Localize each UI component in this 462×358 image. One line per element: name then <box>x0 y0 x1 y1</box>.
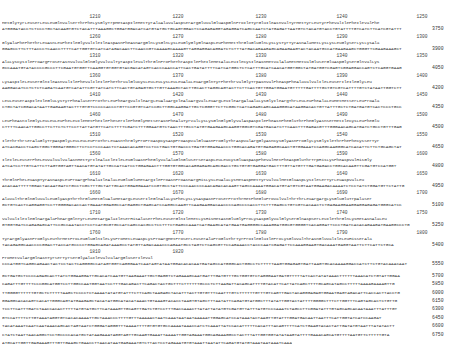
ruler-tick-label: 1700 <box>416 190 427 196</box>
nucleotide-sequence: ATCATCCTTGTCATTCTTAGTGGTAGTTAACATGTATATT… <box>2 163 422 169</box>
ruler-tick-label: 1510 <box>89 132 100 138</box>
amino-acid-sequence: LysAspIleLeuSerGlnIleAsnValIlePheValIleI… <box>2 79 422 85</box>
nucleotide-position-number: 5400 <box>432 242 444 248</box>
nucleotide-sequence: CTTTTCAACATTGGCCTTCTTCTCTTCCTTATTATGTTCA… <box>2 124 422 130</box>
position-ruler: 14101420143014401450 <box>2 92 422 98</box>
ruler-tick-label: 1820 <box>172 249 183 255</box>
ruler-tick-label: 1610 <box>89 171 100 177</box>
nucleotide-position-number: 5850 <box>432 281 444 287</box>
nucleotide-position-number: 6600 <box>432 323 444 329</box>
ruler-tick-label: 1220 <box>172 14 183 20</box>
nucleotide-position-number: 6000 <box>432 290 444 296</box>
ruler-tick-label: 1470 <box>172 112 183 118</box>
nucleotide-position-number: 4200 <box>432 85 444 91</box>
nucleotide-position-number: 6450 <box>432 315 444 321</box>
position-ruler: 17101720173017401750 <box>2 210 422 216</box>
ruler-tick-label: 1790 <box>336 230 347 236</box>
nucleotide-position-number: 5700 <box>432 273 444 279</box>
ruler-tick-label: 1680 <box>255 190 266 196</box>
amino-acid-sequence: TyrArgGlyAsnProGlyLeuThrMetProLeuGluGlnI… <box>2 236 422 242</box>
nucleotide-position-number: 4350 <box>432 104 444 110</box>
nucleotide-sequence: GCTGTCACTCAGGAGGTCCTTGGGGACACCACTGAAATGG… <box>2 202 422 208</box>
nucleotide-position-number: 5250 <box>432 222 444 228</box>
position-ruler: 17601770178017901800 <box>2 230 422 236</box>
ruler-tick-label: 1450 <box>416 92 427 98</box>
coding-block: 16101620163016401650ThrGlnPheLeuAspTyrAs… <box>2 171 422 189</box>
ruler-tick-label: 1370 <box>172 73 183 79</box>
ruler-tick-label: 1440 <box>336 92 347 98</box>
ruler-tick-label: 1350 <box>416 53 427 59</box>
ruler-tick-label: 1710 <box>89 210 100 216</box>
ruler-tick-label: 1280 <box>255 34 266 40</box>
amino-acid-sequence: GlyAlaPhePheThrLeuAsnLeuPheIleGlyValIleI… <box>2 40 422 46</box>
ruler-tick-label: 1460 <box>89 112 100 118</box>
nucleotide-sequence: TACAGAGGCAACCCCGGACTTACCATGCCCCTGGAGCAGA… <box>2 242 422 248</box>
ruler-tick-label: 1580 <box>255 151 266 157</box>
ruler-tick-label: 1720 <box>172 210 183 216</box>
nucleotide-position-number: 4650 <box>432 144 444 150</box>
ruler-tick-label: 1430 <box>255 92 266 98</box>
sequence-figure: 12101220123012401250MetGlyTyrLeuSerLeuLe… <box>0 0 462 358</box>
ruler-tick-label: 1310 <box>89 53 100 59</box>
utr-nucleotide-line: GCTGATGCTCCCCAGAGCACTTATCTGGAAGGATTGCACA… <box>2 273 422 279</box>
ruler-tick-label: 1360 <box>89 73 100 79</box>
ruler-tick-label: 1250 <box>416 14 427 20</box>
coding-block: 15601570158015901600IleIleLeuSerPheLeuVa… <box>2 151 422 169</box>
ruler-tick-label: 1500 <box>416 112 427 118</box>
ruler-tick-label: 1590 <box>336 151 347 157</box>
sequence-terminus-line: ATGCATTGGTTGAGAAAGTTTGTTGAAGCTGAACCTTAAC… <box>2 340 292 346</box>
coding-block: 17101720173017401750ValValIleIleGlnArgAl… <box>2 210 422 228</box>
ruler-tick-label: 1410 <box>89 92 100 98</box>
ruler-tick-label: 1690 <box>336 190 347 196</box>
ruler-tick-label: 1770 <box>172 230 183 236</box>
ruler-tick-label: 1630 <box>255 171 266 177</box>
amino-acid-sequence: ThrGlnPheLeuAspTyrAsnAspLeuProArgPheAlaI… <box>2 177 422 183</box>
ruler-tick-label: 1760 <box>89 230 100 236</box>
ruler-tick-label: 1570 <box>172 151 183 157</box>
nucleotide-sequence: CTGCTATCGGACATAATTGAGAAGTACTTTGTGTCCCCCA… <box>2 104 422 110</box>
nucleotide-sequence: CCCATGGTCAGGCAGAACTACTCCTACTCAGGGGCCATAG… <box>2 261 422 267</box>
ruler-tick-label: 1210 <box>89 14 100 20</box>
nucleotide-sequence: ATCACGACCTCAGCTGGCTGGGATGGGCTTCTCCTCCCAA… <box>2 144 422 150</box>
nucleotide-position-number: 3750 <box>432 26 444 32</box>
nucleotide-position-number: 5100 <box>432 202 444 208</box>
ruler-tick-label: 1650 <box>416 171 427 177</box>
ruler-tick-label: 1540 <box>336 132 347 138</box>
nucleotide-sequence: GTGGTGATCCAGAGAGCATTCCGCCAATACCTCCTCATGC… <box>2 222 422 228</box>
ruler-tick-label: 1270 <box>172 34 183 40</box>
utr-nucleotide-line: CAGATTTGTTTTCCCGGCATGGTCCTTGGCCAATGGTAAT… <box>2 281 422 287</box>
position-ruler: 16601670168016901700 <box>2 190 422 196</box>
nucleotide-sequence: ATGGGATACCTCTCCCTGCTACAAGTGTCTACATTTAAAG… <box>2 26 422 32</box>
utr-nucleotide-line: TACATAAATCAATCAATAAACAGCACTAGTAATCTGGGAT… <box>2 323 422 329</box>
position-ruler: 12101220123012401250 <box>2 14 422 20</box>
ruler-tick-label: 1330 <box>255 53 266 59</box>
amino-acid-sequence: IleThrThrSerAlaGlyTrpAspGlyLeuLeuLeuProT… <box>2 138 422 144</box>
ruler-tick-label: 1660 <box>89 190 100 196</box>
nucleotide-position-number: 4950 <box>432 183 444 189</box>
position-ruler: 13601370138013901400 <box>2 73 422 79</box>
ruler-tick-label: 1800 <box>416 230 427 236</box>
ruler-tick-label: 1640 <box>336 171 347 177</box>
nucleotide-position-number: 3900 <box>432 46 444 52</box>
utr-nucleotide-line: TCCTTCATTTGATCTAACCACACTTTTTATGTATGCTTCA… <box>2 306 422 312</box>
ruler-tick-label: 1320 <box>172 53 183 59</box>
nucleotide-sequence: ACACAATTTTTGGACTACAATGATCTGCCTCGCTTTGCTA… <box>2 183 422 189</box>
nucleotide-position-number: 6750 <box>432 332 444 338</box>
nucleotide-position-number: 6300 <box>432 306 444 312</box>
ruler-tick-label: 1420 <box>172 92 183 98</box>
ruler-tick-label: 1480 <box>255 112 266 118</box>
position-ruler: 13101320133013401350 <box>2 53 422 59</box>
ruler-tick-label: 1340 <box>336 53 347 59</box>
utr-nucleotide-line: TTGGGGTTTTTTGTGCTCTTTTTAAGCTCCCCTCTAAAAT… <box>2 290 422 296</box>
position-ruler: 14601470148014901500 <box>2 112 422 118</box>
ruler-tick-label: 1240 <box>336 14 347 20</box>
nucleotide-sequence: GGAGCCTTCTTTACCCTCAACCTTTTCATTGGTGTCATCA… <box>2 46 422 52</box>
ruler-tick-label: 1550 <box>416 132 427 138</box>
position-ruler: 18101820 <box>2 249 422 255</box>
utr-nucleotide-line: CTATCTAATTAACAGGCTCCTGCCCCACATGCTATAAGAA… <box>2 332 422 338</box>
ruler-tick-label: 1260 <box>89 34 100 40</box>
ruler-tick-label: 1600 <box>416 151 427 157</box>
position-ruler: 16101620163016401650 <box>2 171 422 177</box>
coding-block: 14101420143014401450LeuLeuSerAspIleIleGl… <box>2 92 422 110</box>
ruler-tick-label: 1490 <box>336 112 347 118</box>
